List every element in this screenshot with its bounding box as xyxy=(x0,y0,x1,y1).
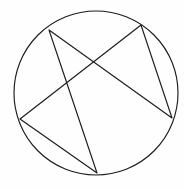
circumscribed-circle xyxy=(14,11,178,175)
pentagram-drawing xyxy=(0,0,184,189)
figure-canvas xyxy=(0,0,184,189)
pentagram-star-path xyxy=(20,25,172,173)
